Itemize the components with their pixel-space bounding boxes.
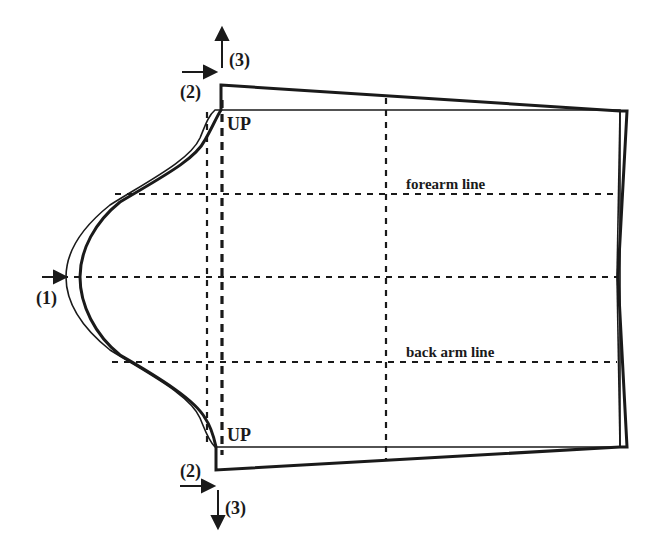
original-sleeve-outline	[66, 110, 620, 447]
forearm-line-label: forearm line	[406, 176, 486, 192]
guide-lines	[62, 98, 617, 460]
step1-label: (1)	[36, 288, 57, 309]
arrow-right-left-icon	[42, 271, 66, 283]
sleeve-pattern-diagram: (3) (2) UP forearm line (1) back arm lin…	[0, 0, 651, 548]
arrow-right-top-icon	[182, 66, 216, 78]
up-top-label: UP	[227, 114, 251, 134]
up-bottom-label: UP	[227, 425, 251, 445]
back-arm-line-label: back arm line	[406, 344, 495, 360]
step3-top-label: (3)	[229, 50, 250, 71]
step3-bottom-label: (3)	[225, 498, 246, 519]
step2-bottom-label: (2)	[180, 461, 201, 482]
arrow-down-icon	[212, 490, 224, 528]
arrow-right-bottom-icon	[180, 480, 214, 492]
step2-top-label: (2)	[180, 82, 201, 103]
arrow-up-icon	[216, 28, 228, 68]
